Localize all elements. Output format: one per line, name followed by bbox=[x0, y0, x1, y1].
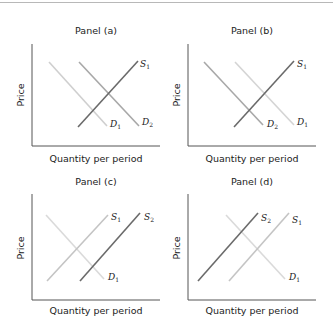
panel-b-label-s1: S1 bbox=[297, 59, 307, 70]
panel-a-label-d2: D2 bbox=[141, 117, 153, 128]
panel-d-title: Panel (d) bbox=[231, 176, 273, 187]
panel-d: Panel (d) Price Quantity per period S2 S… bbox=[171, 176, 316, 316]
panel-c-title: Panel (c) bbox=[75, 176, 116, 187]
panel-a-title: Panel (a) bbox=[75, 25, 117, 36]
panel-d-label-d1: D1 bbox=[288, 272, 300, 283]
panel-d-supply-s2 bbox=[198, 213, 258, 281]
panel-a: Panel (a) Price Quantity per period S1 D… bbox=[15, 25, 160, 164]
panel-c: Panel (c) Price Quantity per period S1 S… bbox=[15, 176, 160, 316]
panel-c-demand-d1 bbox=[46, 215, 104, 279]
panel-c-label-s2: S2 bbox=[144, 212, 154, 223]
panel-d-label-s1: S1 bbox=[292, 215, 302, 226]
panel-b-demand-d2 bbox=[204, 62, 263, 125]
panel-a-xlabel: Quantity per period bbox=[49, 153, 142, 164]
panel-c-ylabel: Price bbox=[15, 236, 26, 259]
supply-demand-figure: Panel (a) Price Quantity per period S1 D… bbox=[0, 0, 333, 328]
panel-a-label-s1: S1 bbox=[140, 59, 150, 70]
panel-b: Panel (b) Price Quantity per period S1 D… bbox=[171, 25, 316, 164]
panel-b-title: Panel (b) bbox=[231, 25, 273, 36]
panel-b-ylabel: Price bbox=[171, 83, 182, 106]
panel-a-demand-d1 bbox=[49, 62, 107, 126]
panel-d-demand-d1 bbox=[226, 215, 285, 279]
panel-c-label-s1: S1 bbox=[111, 212, 121, 223]
panel-d-label-s2: S2 bbox=[261, 213, 271, 224]
panel-c-supply-s1 bbox=[47, 215, 108, 281]
panel-b-label-d1: D1 bbox=[296, 117, 308, 128]
panel-a-ylabel: Price bbox=[15, 83, 26, 106]
panel-c-label-d1: D1 bbox=[107, 272, 119, 283]
panel-d-ylabel: Price bbox=[171, 236, 182, 259]
panel-c-xlabel: Quantity per period bbox=[49, 305, 142, 316]
panel-b-xlabel: Quantity per period bbox=[205, 153, 298, 164]
panel-d-supply-s1 bbox=[229, 213, 289, 281]
panel-c-supply-s2 bbox=[80, 213, 140, 281]
panel-d-xlabel: Quantity per period bbox=[205, 305, 298, 316]
panel-a-label-d1: D1 bbox=[109, 119, 121, 130]
panel-b-label-d2: D2 bbox=[266, 119, 278, 130]
